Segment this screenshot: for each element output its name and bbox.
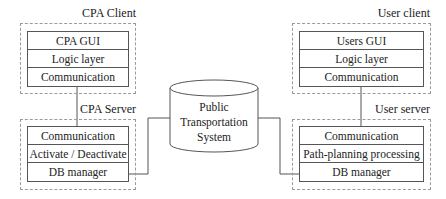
path-planning-layer: Path-planning processing [300, 145, 423, 163]
communication-layer: Communication [28, 68, 128, 86]
cpa-server-stack: Communication Activate / Deactivate DB m… [27, 126, 129, 182]
cpa-client-stack: CPA GUI Logic layer Communication [27, 31, 129, 87]
cpa-server-label: CPA Server [60, 102, 136, 117]
communication-layer: Communication [300, 127, 423, 145]
user-client-stack: Users GUI Logic layer Communication [299, 31, 424, 87]
user-server-stack: Communication Path-planning processing D… [299, 126, 424, 182]
user-client-label: User client [340, 6, 430, 21]
database-label-line2: Transportation [170, 115, 258, 130]
logic-layer: Logic layer [300, 50, 423, 68]
communication-layer: Communication [300, 68, 423, 86]
activate-deactivate-layer: Activate / Deactivate [28, 145, 128, 163]
cpa-client-label: CPA Client [60, 6, 136, 21]
db-manager-layer: DB manager [28, 163, 128, 181]
db-manager-layer: DB manager [300, 163, 423, 181]
logic-layer: Logic layer [28, 50, 128, 68]
cpa-gui-layer: CPA GUI [28, 32, 128, 50]
database-label-line1: Public [170, 100, 258, 115]
database-label-line3: System [170, 130, 258, 145]
users-gui-layer: Users GUI [300, 32, 423, 50]
user-server-label: User server [340, 102, 430, 117]
database-label: Public Transportation System [170, 100, 258, 145]
communication-layer: Communication [28, 127, 128, 145]
